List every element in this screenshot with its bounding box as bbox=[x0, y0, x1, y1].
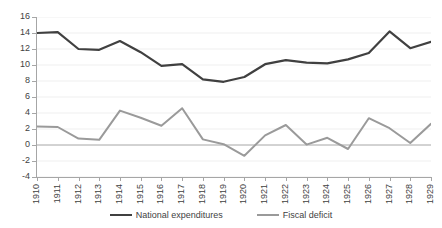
x-tick-mark bbox=[348, 177, 349, 181]
x-tick-label: 1929 bbox=[426, 184, 435, 204]
x-tick-mark bbox=[182, 177, 183, 181]
legend-entry[interactable]: Fiscal deficit bbox=[257, 210, 333, 220]
legend-swatch-icon bbox=[257, 214, 279, 216]
gridlines bbox=[37, 17, 431, 177]
x-tick-mark bbox=[99, 177, 100, 181]
x-tick-label: 1923 bbox=[302, 184, 311, 204]
x-tick-label: 1924 bbox=[322, 184, 331, 204]
x-tick-mark bbox=[431, 177, 432, 181]
x-axis-line bbox=[36, 177, 431, 178]
y-tick-label: 14 bbox=[2, 28, 30, 37]
y-tick-label: 12 bbox=[2, 44, 30, 53]
x-tick-label: 1927 bbox=[385, 184, 394, 204]
y-tick-mark bbox=[32, 49, 36, 50]
legend-entry[interactable]: National expenditures bbox=[110, 210, 223, 220]
y-tick-label: 16 bbox=[2, 12, 30, 21]
x-tick-label: 1921 bbox=[260, 184, 269, 204]
x-tick-label: 1917 bbox=[177, 184, 186, 204]
series-line-national-expenditures bbox=[37, 31, 431, 81]
x-tick-label: 1911 bbox=[53, 184, 62, 203]
y-tick-label: -4 bbox=[2, 172, 30, 181]
x-tick-label: 1919 bbox=[219, 184, 228, 204]
x-tick-mark bbox=[390, 177, 391, 181]
chart-legend: National expendituresFiscal deficit bbox=[0, 208, 442, 222]
x-tick-mark bbox=[410, 177, 411, 181]
series-line-fiscal-deficit bbox=[37, 108, 431, 156]
x-tick-mark bbox=[120, 177, 121, 181]
x-tick-mark bbox=[79, 177, 80, 181]
x-tick-mark bbox=[307, 177, 308, 181]
x-tick-label: 1918 bbox=[198, 184, 207, 204]
x-tick-label: 1916 bbox=[156, 184, 165, 204]
plot-area bbox=[37, 17, 431, 177]
y-tick-mark bbox=[32, 113, 36, 114]
y-tick-mark bbox=[32, 129, 36, 130]
x-tick-label: 1922 bbox=[281, 184, 290, 204]
x-tick-mark bbox=[327, 177, 328, 181]
x-tick-mark bbox=[244, 177, 245, 181]
line-chart: 1614121086420-2-4 1910191119121913191419… bbox=[0, 0, 442, 228]
y-tick-mark bbox=[32, 65, 36, 66]
x-tick-label: 1928 bbox=[405, 184, 414, 204]
x-tick-mark bbox=[224, 177, 225, 181]
x-tick-label: 1926 bbox=[364, 184, 373, 204]
y-tick-mark bbox=[32, 145, 36, 146]
y-tick-mark bbox=[32, 17, 36, 18]
plot-svg bbox=[37, 17, 431, 177]
series-lines bbox=[37, 31, 431, 155]
x-tick-mark bbox=[141, 177, 142, 181]
x-tick-mark bbox=[369, 177, 370, 181]
y-tick-label: 0 bbox=[2, 140, 30, 149]
y-axis-line bbox=[36, 17, 37, 177]
y-tick-mark bbox=[32, 81, 36, 82]
y-tick-mark bbox=[32, 177, 36, 178]
y-tick-label: 8 bbox=[2, 76, 30, 85]
x-tick-mark bbox=[265, 177, 266, 181]
y-tick-label: 2 bbox=[2, 124, 30, 133]
y-tick-label: 4 bbox=[2, 108, 30, 117]
y-tick-mark bbox=[32, 33, 36, 34]
y-tick-mark bbox=[32, 161, 36, 162]
y-tick-label: -2 bbox=[2, 156, 30, 165]
x-tick-label: 1914 bbox=[115, 184, 124, 204]
x-tick-label: 1925 bbox=[343, 184, 352, 204]
y-tick-label: 6 bbox=[2, 92, 30, 101]
x-tick-label: 1910 bbox=[32, 184, 41, 204]
legend-label: National expenditures bbox=[136, 210, 223, 220]
legend-label: Fiscal deficit bbox=[283, 210, 333, 220]
x-tick-mark bbox=[203, 177, 204, 181]
x-tick-mark bbox=[161, 177, 162, 181]
y-tick-label: 10 bbox=[2, 60, 30, 69]
x-tick-label: 1913 bbox=[94, 184, 103, 204]
x-tick-mark bbox=[37, 177, 38, 181]
y-tick-mark bbox=[32, 97, 36, 98]
x-tick-label: 1915 bbox=[136, 184, 145, 204]
x-tick-label: 1912 bbox=[74, 184, 83, 204]
x-tick-label: 1920 bbox=[239, 184, 248, 204]
x-tick-mark bbox=[286, 177, 287, 181]
x-tick-mark bbox=[58, 177, 59, 181]
legend-swatch-icon bbox=[110, 214, 132, 217]
